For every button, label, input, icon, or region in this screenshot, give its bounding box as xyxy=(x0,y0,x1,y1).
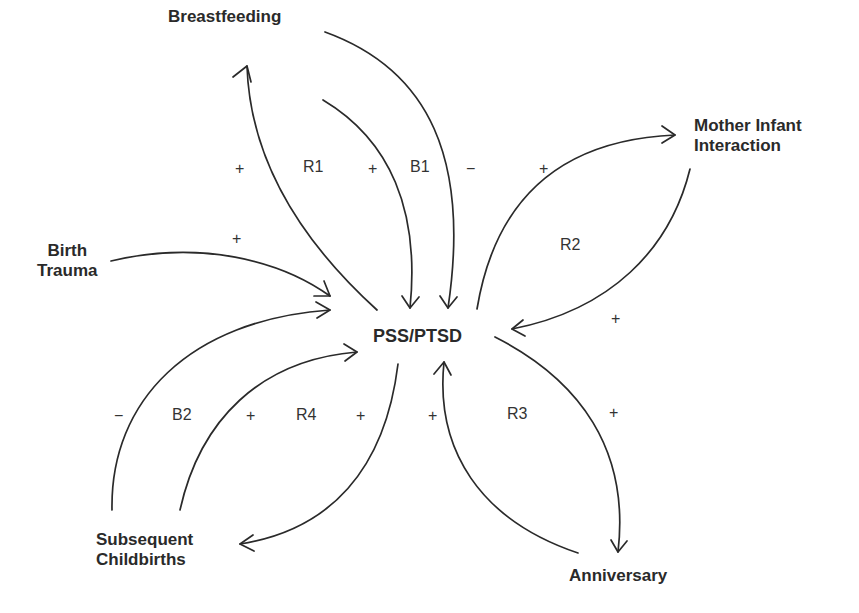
loop-label-r4: R4 xyxy=(296,406,316,424)
edge-anniversary-to-pss xyxy=(443,362,578,553)
polarity-breastfeeding-to-pss-inner: + xyxy=(368,161,377,177)
edge-pss-to-breastfeeding xyxy=(247,66,377,310)
edge-subsequent-to-pss-inner xyxy=(180,352,357,510)
edge-pss-to-subsequent xyxy=(240,364,398,544)
node-breastfeeding: Breastfeeding xyxy=(168,7,281,27)
polarity-breastfeeding-to-pss-outer: − xyxy=(466,161,475,177)
edge-birth-trauma-to-pss xyxy=(111,252,330,296)
edge-breastfeeding-to-pss-inner xyxy=(323,100,412,308)
edge-pss-to-mother-infant xyxy=(477,135,675,309)
polarity-pss-to-anniversary: + xyxy=(609,405,618,421)
node-subsequent-line1: Subsequent xyxy=(96,530,193,550)
edge-mother-infant-to-pss xyxy=(512,169,690,329)
edge-pss-to-anniversary xyxy=(495,337,620,552)
node-pss-ptsd: PSS/PTSD xyxy=(373,326,462,346)
polarity-birth-trauma-to-pss: + xyxy=(232,231,241,247)
loop-label-r2: R2 xyxy=(560,236,580,254)
node-mother-infant-interaction: Mother Infant Interaction xyxy=(694,116,802,156)
node-birth-trauma: Birth Trauma xyxy=(37,241,97,281)
loop-label-r1: R1 xyxy=(303,158,323,176)
polarity-subsequent-to-pss-outer: − xyxy=(114,408,123,424)
polarity-pss-to-mother-infant: + xyxy=(539,161,548,177)
node-birth-trauma-line2: Trauma xyxy=(37,261,97,281)
node-birth-trauma-line1: Birth xyxy=(37,241,97,261)
polarity-subsequent-to-pss-inner: + xyxy=(246,408,255,424)
polarity-anniversary-to-pss: + xyxy=(428,408,437,424)
loop-label-b1: B1 xyxy=(410,158,430,176)
node-anniversary: Anniversary xyxy=(569,566,667,586)
polarity-pss-to-breastfeeding: + xyxy=(235,161,244,177)
node-mother-infant-line1: Mother Infant xyxy=(694,116,802,136)
polarity-pss-to-subsequent: + xyxy=(356,408,365,424)
loop-label-b2: B2 xyxy=(172,406,192,424)
polarity-mother-infant-to-pss: + xyxy=(611,311,620,327)
causal-edges xyxy=(0,0,859,613)
node-subsequent-childbirths: Subsequent Childbirths xyxy=(96,530,193,570)
loop-label-r3: R3 xyxy=(507,405,527,423)
node-mother-infant-line2: Interaction xyxy=(694,136,802,156)
node-subsequent-line2: Childbirths xyxy=(96,550,193,570)
